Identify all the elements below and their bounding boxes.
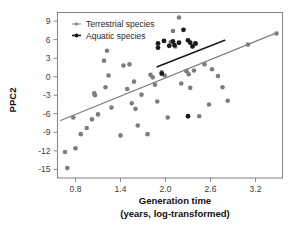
data-point (210, 67, 215, 72)
data-point (93, 93, 98, 98)
y-tick-label: 0 (46, 72, 51, 82)
data-point (225, 99, 230, 104)
data-point (125, 87, 130, 92)
data-point (63, 150, 68, 155)
data-point (90, 117, 95, 122)
data-point (71, 115, 76, 120)
data-point (139, 92, 144, 97)
y-tick-label: -3 (43, 90, 51, 100)
data-point (103, 85, 108, 90)
data-point (186, 72, 191, 77)
data-point (220, 85, 225, 90)
x-tick-label: 2.6 (205, 184, 217, 194)
data-point (193, 41, 198, 46)
x-tick-label: 0.8 (70, 184, 82, 194)
x-tick-label: 2.0 (160, 184, 172, 194)
data-point (177, 40, 182, 45)
data-point (73, 146, 78, 151)
data-point (102, 58, 107, 63)
data-point (186, 114, 191, 119)
x-tick-label: 1.4 (115, 184, 127, 194)
data-point (145, 132, 150, 137)
data-point (274, 31, 279, 36)
data-point (197, 114, 202, 119)
data-point (192, 68, 197, 73)
data-point (188, 86, 193, 91)
legend-marker (75, 22, 78, 25)
data-point (202, 62, 207, 67)
data-point (172, 43, 177, 48)
data-point (129, 101, 134, 106)
figure-container: 0.81.42.02.63.2 9630-3-6-9-12-15 Terrest… (0, 0, 294, 228)
y-tick-label: 9 (46, 16, 51, 26)
y-tick-label: -12 (38, 146, 51, 156)
data-point (167, 43, 172, 48)
legend-label: Aquatic species (86, 31, 146, 41)
legend-marker (75, 34, 79, 38)
y-tick-label: 3 (46, 53, 51, 63)
data-point (246, 42, 251, 47)
y-tick-label: -6 (43, 109, 51, 119)
data-point (162, 39, 167, 44)
data-point (156, 45, 161, 50)
y-tick-label: -9 (43, 127, 51, 137)
data-point (153, 82, 158, 87)
y-tick-label: 6 (46, 35, 51, 45)
data-point (135, 123, 140, 128)
data-point (177, 15, 182, 20)
data-point (84, 126, 89, 131)
data-point (171, 29, 176, 34)
data-point (121, 63, 126, 68)
data-point (159, 71, 164, 76)
scatter-plot: 0.81.42.02.63.2 9630-3-6-9-12-15 Terrest… (0, 0, 294, 228)
data-point (105, 48, 110, 53)
x-axis-title: Generation time (139, 195, 211, 206)
data-point (216, 74, 221, 79)
data-point (150, 75, 155, 80)
legend-label: Terrestrial species (86, 19, 155, 29)
data-point (109, 105, 114, 110)
data-point (132, 79, 137, 84)
data-point (165, 115, 170, 120)
data-point (118, 133, 123, 138)
data-point (96, 112, 101, 117)
data-point (207, 102, 212, 107)
data-point (156, 41, 161, 46)
data-point (179, 81, 184, 86)
y-tick-label: -15 (38, 164, 51, 174)
data-point (65, 166, 70, 171)
data-point (181, 27, 186, 32)
data-point (106, 73, 111, 78)
y-axis-title: PPC2 (7, 88, 18, 113)
data-point (155, 99, 160, 104)
x-axis-subtitle: (years, log-transformed) (120, 208, 229, 219)
data-point (78, 132, 83, 137)
x-tick-label: 3.2 (250, 184, 262, 194)
data-point (127, 62, 132, 67)
data-point (133, 107, 138, 112)
